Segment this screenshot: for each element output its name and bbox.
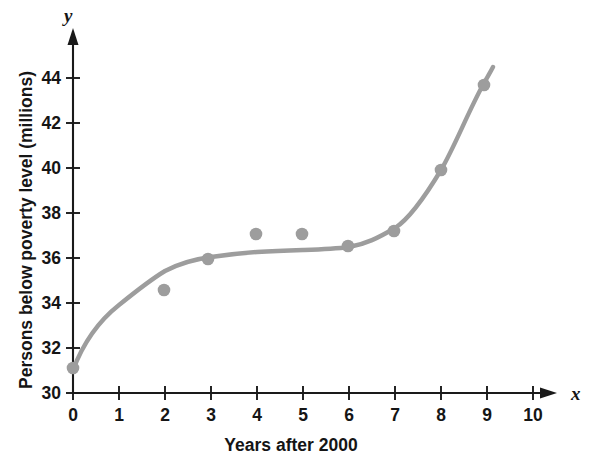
x-tick-label-5: 5 [298, 405, 308, 425]
y-tick-label-36: 36 [42, 248, 62, 268]
data-point [388, 225, 401, 238]
data-point [250, 228, 263, 241]
data-point [342, 240, 355, 253]
x-tick-label-10: 10 [523, 405, 543, 425]
y-axis-variable-label: y [62, 5, 73, 26]
data-point [296, 228, 309, 241]
x-axis-title: Years after 2000 [224, 435, 358, 455]
y-tick-label-44: 44 [42, 68, 62, 88]
x-tick-label-9: 9 [482, 405, 492, 425]
y-tick-label-34: 34 [42, 293, 62, 313]
y-tick-label-30: 30 [42, 383, 62, 403]
regression-curve [73, 67, 493, 370]
y-tick-label-40: 40 [42, 158, 62, 178]
x-axis-arrowhead-icon [540, 388, 557, 399]
data-point [435, 164, 448, 177]
y-axis-title: Persons below poverty level (millions) [16, 71, 36, 389]
y-tick-label-38: 38 [42, 203, 62, 223]
y-axis-arrowhead-icon [68, 28, 79, 45]
data-point [158, 284, 171, 297]
x-tick-label-6: 6 [344, 405, 354, 425]
y-tick-label-42: 42 [42, 113, 62, 133]
x-tick-label-3: 3 [206, 405, 216, 425]
poverty-level-chart: 30 32 34 36 38 40 42 44 0 1 2 [0, 0, 602, 465]
x-tick-label-1: 1 [114, 405, 124, 425]
x-tick-label-0: 0 [68, 405, 78, 425]
y-axis-tick-labels: 30 32 34 36 38 40 42 44 [42, 68, 62, 403]
chart-canvas: 30 32 34 36 38 40 42 44 0 1 2 [0, 0, 602, 465]
x-axis-variable-label: x [570, 383, 581, 404]
x-tick-label-2: 2 [160, 405, 170, 425]
x-tick-label-7: 7 [390, 405, 400, 425]
x-tick-label-4: 4 [252, 405, 262, 425]
data-point [67, 362, 80, 375]
x-axis [73, 388, 557, 399]
x-tick-label-8: 8 [436, 405, 446, 425]
data-point-group [67, 79, 491, 375]
data-point [202, 253, 215, 266]
y-axis [68, 28, 79, 393]
data-point [478, 79, 491, 92]
y-tick-label-32: 32 [42, 338, 62, 358]
x-axis-tick-labels: 0 1 2 3 4 5 6 7 8 9 10 [68, 405, 543, 425]
